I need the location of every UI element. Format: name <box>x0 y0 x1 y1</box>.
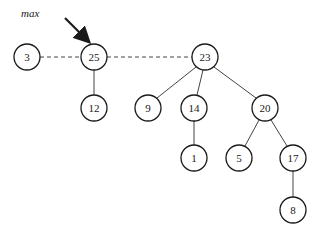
node-14: 14 <box>181 95 207 121</box>
edge-23-9 <box>157 67 196 98</box>
svg-text:17: 17 <box>288 152 300 164</box>
svg-text:3: 3 <box>24 51 30 63</box>
svg-text:12: 12 <box>89 102 100 114</box>
svg-text:20: 20 <box>260 102 272 114</box>
edge-20-17 <box>271 120 287 146</box>
node-23: 23 <box>192 44 218 70</box>
edge-20-5 <box>245 120 259 146</box>
heap-diagram: max 3 25 12 23 9 14 20 1 5 17 8 <box>0 0 319 235</box>
node-3: 3 <box>14 44 40 70</box>
node-8: 8 <box>280 197 306 223</box>
svg-text:23: 23 <box>200 51 212 63</box>
max-pointer-label: max <box>21 7 39 19</box>
svg-text:1: 1 <box>191 152 197 164</box>
max-pointer-arrow <box>65 18 88 41</box>
node-12: 12 <box>81 95 107 121</box>
edge-23-14 <box>197 70 203 95</box>
edge-23-20 <box>214 67 256 98</box>
node-20: 20 <box>252 95 278 121</box>
node-1: 1 <box>181 145 207 171</box>
svg-text:14: 14 <box>189 102 201 114</box>
node-17: 17 <box>280 145 306 171</box>
node-9: 9 <box>135 95 161 121</box>
svg-text:8: 8 <box>290 204 296 216</box>
node-5: 5 <box>226 145 252 171</box>
svg-text:25: 25 <box>89 51 101 63</box>
svg-text:9: 9 <box>145 102 151 114</box>
svg-text:5: 5 <box>236 152 242 164</box>
node-25: 25 <box>81 44 107 70</box>
